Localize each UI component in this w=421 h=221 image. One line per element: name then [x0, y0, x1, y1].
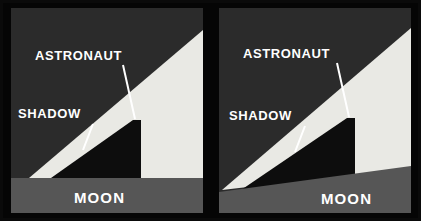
figure-frame: ASTRONAUT SHADOW MOON ASTRONAUT	[0, 0, 421, 221]
sloped-ground-panel-graphic: ASTRONAUT SHADOW MOON	[219, 8, 411, 213]
shadow-label: SHADOW	[229, 108, 292, 123]
moon-label: MOON	[74, 189, 125, 206]
shadow-label: SHADOW	[18, 106, 81, 121]
astronaut-label: ASTRONAUT	[35, 48, 122, 63]
flat-ground-panel: ASTRONAUT SHADOW MOON	[11, 8, 203, 213]
flat-ground-panel-graphic: ASTRONAUT SHADOW MOON	[11, 8, 203, 213]
astronaut-label: ASTRONAUT	[243, 46, 330, 61]
astronaut-body	[133, 120, 141, 178]
sloped-ground-panel: ASTRONAUT SHADOW MOON	[219, 8, 411, 213]
astronaut-body	[347, 118, 355, 180]
moon-label: MOON	[321, 190, 372, 207]
